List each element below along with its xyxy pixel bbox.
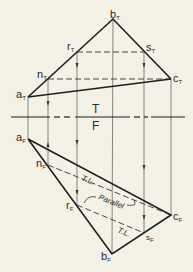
parallel-label: Parallel bbox=[97, 193, 125, 211]
svg-text:bT: bT bbox=[110, 8, 120, 21]
top-view-labels: bT rT sT nT cT aT bbox=[16, 8, 183, 101]
true-length-label-1: T.L. bbox=[80, 174, 95, 187]
fold-label-bottom: F bbox=[92, 119, 99, 133]
svg-text:rT: rT bbox=[67, 40, 75, 53]
svg-text:nF: nF bbox=[36, 157, 46, 170]
top-view-dashed-lines bbox=[48, 52, 171, 79]
svg-text:sT: sT bbox=[146, 41, 156, 54]
top-view-triangle bbox=[28, 19, 171, 97]
projection-diagram: T F T.L. T.L. Parallel bT rT sT nT cT aT… bbox=[0, 0, 193, 272]
true-length-label-2: T.L. bbox=[116, 226, 131, 239]
svg-text:cF: cF bbox=[173, 210, 183, 223]
projection-arrows bbox=[47, 63, 146, 220]
projection-lines bbox=[28, 19, 171, 254]
svg-text:aF: aF bbox=[16, 131, 26, 144]
fold-label-top: T bbox=[92, 102, 100, 116]
svg-text:cT: cT bbox=[173, 72, 183, 85]
svg-text:sF: sF bbox=[146, 233, 154, 243]
svg-text:aT: aT bbox=[16, 88, 26, 101]
svg-text:nT: nT bbox=[37, 68, 47, 81]
